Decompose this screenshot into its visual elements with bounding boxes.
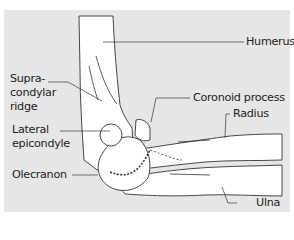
- label-radius: Radius: [233, 107, 269, 120]
- label-supracondylar-ridge-line2: condylar: [10, 86, 56, 99]
- label-supracondylar-ridge-line3: ridge: [10, 100, 37, 113]
- label-coronoid-process: Coronoid process: [193, 91, 285, 104]
- label-lateral-epicondyle-line2: epicondyle: [12, 137, 70, 150]
- label-ulna: Ulna: [256, 196, 280, 209]
- label-supracondylar-ridge-line1: Supra-: [10, 72, 45, 85]
- label-olecranon: Olecranon: [12, 168, 67, 181]
- label-humerus: Humerus: [246, 35, 294, 48]
- radius-bone: [135, 134, 282, 170]
- coronoid-bone: [135, 119, 150, 140]
- capitulum: [100, 124, 122, 146]
- label-lateral-epicondyle-line1: Lateral: [12, 123, 49, 136]
